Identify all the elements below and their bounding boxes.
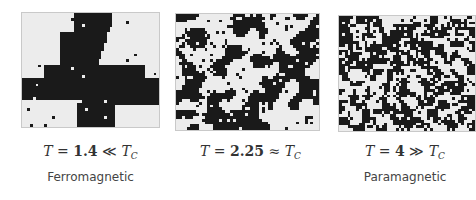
critical-temperature-symbol: T — [285, 143, 294, 159]
relation-symbol: ≫ — [409, 143, 424, 159]
relation-symbol: ≪ — [102, 143, 117, 159]
temperature-value: 1.4 — [73, 143, 97, 159]
critical-temperature-symbol: T — [429, 143, 438, 159]
temperature-equation: T = 2.25 ≈ TC — [178, 143, 323, 161]
critical-temperature-symbol: T — [122, 143, 131, 159]
temperature-value: 2.25 — [230, 143, 264, 159]
temperature-value: 4 — [395, 143, 405, 159]
equals-sign: = — [57, 143, 69, 159]
equals-sign: = — [379, 143, 391, 159]
temperature-symbol: T — [200, 143, 209, 159]
phase-label: Ferromagnetic — [21, 170, 160, 184]
critical-subscript: C — [294, 151, 301, 161]
relation-symbol: ≈ — [269, 143, 281, 159]
spin-grid — [339, 16, 475, 131]
spin-grid — [22, 13, 159, 127]
critical-subscript: C — [438, 151, 445, 161]
equals-sign: = — [214, 143, 226, 159]
spin-lattice-critical-temperature — [175, 13, 320, 131]
spin-lattice-low-temperature — [21, 12, 160, 128]
temperature-equation: T = 4 ≫ TC — [338, 143, 472, 161]
temperature-symbol: T — [365, 143, 374, 159]
spin-lattice-high-temperature — [338, 15, 476, 132]
critical-subscript: C — [131, 151, 138, 161]
temperature-symbol: T — [43, 143, 52, 159]
phase-label: Paramagnetic — [338, 170, 472, 184]
temperature-equation: T = 1.4 ≪ TC — [21, 143, 160, 161]
spin-grid — [176, 14, 319, 130]
